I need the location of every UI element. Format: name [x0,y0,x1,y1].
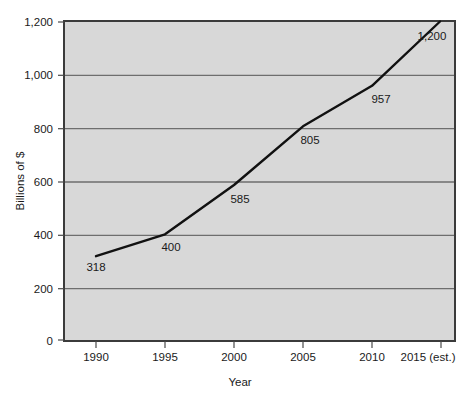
y-tick-label-1000: 1,000 [24,69,53,81]
data-label-805: 805 [300,134,319,146]
x-axis-title: Year [228,376,251,388]
data-label-585: 585 [230,193,249,205]
x-tick-label-2000: 2000 [221,351,247,363]
x-tick-label-2005: 2005 [290,351,316,363]
plot-area-background [64,21,455,341]
y-tick-label-600: 600 [34,176,53,188]
y-tick-label-400: 400 [34,229,53,241]
x-tick-label-2010: 2010 [359,351,385,363]
x-tick-label-1990: 1990 [83,351,109,363]
y-tick-label-0: 0 [47,335,53,347]
y-axis-title: Billions of $ [14,151,26,210]
data-label-400: 400 [161,241,180,253]
data-label-957: 957 [371,93,390,105]
data-label-318: 318 [86,261,105,273]
y-tick-label-1200: 1,200 [24,16,53,28]
x-axis-ticks [96,341,441,348]
chart-canvas: 1,200 1,000 800 600 400 200 0 1990 1995 … [0,0,466,397]
line-chart-figure: 1,200 1,000 800 600 400 200 0 1990 1995 … [0,0,466,397]
data-label-1200: 1,200 [418,30,447,42]
y-tick-label-800: 800 [34,123,53,135]
x-tick-label-1995: 1995 [152,351,178,363]
y-tick-label-200: 200 [34,283,53,295]
x-tick-label-2015-est: 2015 (est.) [401,351,456,363]
